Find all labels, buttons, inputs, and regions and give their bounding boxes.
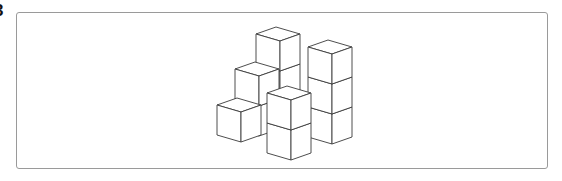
right-tower-1 bbox=[308, 40, 352, 84]
bottom-left-cube-1 bbox=[217, 98, 261, 142]
cube-stack-diagram bbox=[0, 0, 562, 181]
front-stack-1 bbox=[267, 86, 311, 130]
